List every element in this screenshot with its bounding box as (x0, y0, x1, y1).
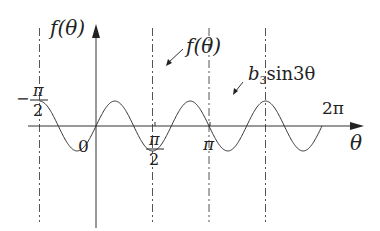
y-axis-arrow-icon (92, 24, 100, 38)
tick-label-zero: 0 (78, 136, 89, 156)
guide-lines (39, 28, 265, 222)
tick-label-2pi: 2π (322, 98, 344, 118)
f-label-leader (168, 49, 183, 63)
tick-label-neg-pi-half: − π 2 (16, 81, 48, 120)
sine-label-rest: sin3θ (267, 63, 316, 84)
x-axis-arrow-icon (350, 122, 364, 130)
tick-label-pi-half: π 2 (146, 130, 164, 169)
tick-neg-den: 2 (33, 101, 43, 120)
sine-label-sub: 3 (260, 74, 267, 87)
tick-label-pi: π (202, 134, 215, 154)
tick-pi-half-num: π (148, 130, 160, 149)
x-axis-label: θ (350, 131, 362, 155)
fourier-diagram: f(θ) f(θ) b3sin3θ θ 0 π 2π π 2 − π 2 (0, 0, 380, 231)
f-curve-label: f(θ) (184, 34, 221, 58)
sine-label: b3sin3θ (248, 63, 315, 87)
tick-pi-half-den: 2 (149, 150, 159, 169)
sine-label-b: b (248, 63, 260, 84)
y-axis-label: f(θ) (48, 16, 85, 40)
tick-neg-num: π (32, 81, 44, 100)
tick-neg-sign: − (16, 89, 29, 108)
diagram-canvas: f(θ) f(θ) b3sin3θ θ 0 π 2π π 2 − π 2 (0, 0, 380, 231)
tick-2pi-text: 2π (322, 98, 344, 118)
